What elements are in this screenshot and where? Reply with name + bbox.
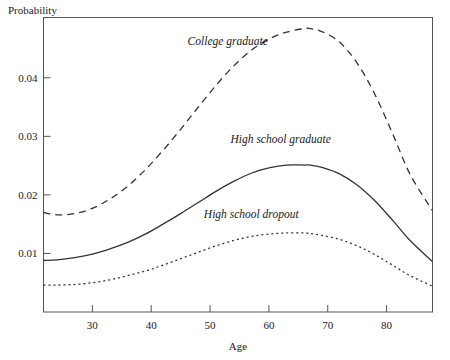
- x-tick-label: 50: [205, 319, 217, 331]
- probability-by-age-chart: Probability 0.010.020.030.04 30405060708…: [0, 0, 450, 360]
- curve-high-school-dropout: [44, 233, 433, 286]
- chart-canvas: Probability 0.010.020.030.04 30405060708…: [0, 0, 450, 360]
- x-tick-label: 30: [87, 319, 99, 331]
- y-tick-label: 0.04: [18, 72, 38, 84]
- y-axis-title: Probability: [8, 4, 57, 16]
- series-label-group: College graduateHigh school graduateHigh…: [188, 35, 331, 221]
- y-tick-label: 0.03: [18, 130, 38, 142]
- x-tick-label: 70: [322, 319, 334, 331]
- series-label-high-school-graduate: High school graduate: [230, 133, 331, 146]
- x-axis-ticks: 304050607080: [87, 305, 393, 331]
- curve-group: [44, 28, 433, 286]
- x-tick-label: 60: [263, 319, 275, 331]
- series-label-high-school-dropout: High school dropout: [203, 208, 300, 221]
- x-axis-title: Age: [229, 340, 247, 352]
- y-axis-ticks: 0.010.020.030.04: [18, 72, 50, 260]
- series-label-college-graduate: College graduate: [188, 35, 268, 48]
- y-tick-label: 0.02: [18, 189, 37, 201]
- x-tick-label: 80: [381, 319, 393, 331]
- x-tick-label: 40: [146, 319, 158, 331]
- curve-college-graduate: [44, 28, 433, 215]
- y-tick-label: 0.01: [18, 247, 37, 259]
